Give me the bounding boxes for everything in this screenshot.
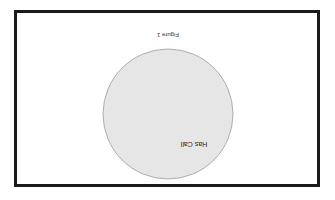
figure-stage: Figure 1 Has Call	[0, 0, 335, 200]
pie-slice-has-call	[103, 49, 233, 179]
pie-chart: Figure 1 Has Call	[0, 0, 335, 200]
chart-title: Figure 1	[156, 32, 179, 38]
slice-label-has-call: Has Call	[180, 141, 207, 148]
